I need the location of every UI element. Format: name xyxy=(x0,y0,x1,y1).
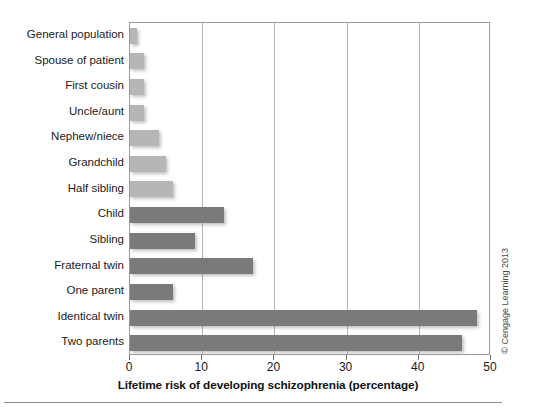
y-axis-label-child: Child xyxy=(0,201,124,227)
bar-row xyxy=(130,228,491,254)
x-tick-label-10: 10 xyxy=(181,360,221,374)
bar-row xyxy=(130,151,491,177)
y-axis-label-spouse-of-patient: Spouse of patient xyxy=(0,48,124,74)
bar-row xyxy=(130,23,491,49)
schizophrenia-risk-chart: General populationSpouse of patientFirst… xyxy=(0,0,536,414)
bar-fraternal-twin xyxy=(130,258,253,274)
copyright-credit: © Cengage Learning 2013 xyxy=(500,248,510,354)
bar-row xyxy=(130,49,491,75)
bar-row xyxy=(130,100,491,126)
y-axis-label-grandchild: Grandchild xyxy=(0,150,124,176)
y-axis-label-one-parent: One parent xyxy=(0,278,124,304)
plot-area xyxy=(129,22,490,355)
bar-general-population xyxy=(130,28,137,44)
bar-child xyxy=(130,207,224,223)
x-axis-title: Lifetime risk of developing schizophreni… xyxy=(0,378,536,392)
bar-nephew-niece xyxy=(130,130,159,146)
bar-row xyxy=(130,125,491,151)
bar-row xyxy=(130,177,491,203)
y-axis-label-first-cousin: First cousin xyxy=(0,73,124,99)
x-tick-label-50: 50 xyxy=(470,360,510,374)
x-tick-label-40: 40 xyxy=(398,360,438,374)
bar-row xyxy=(130,330,491,356)
bars-layer xyxy=(130,23,489,354)
bar-row xyxy=(130,279,491,305)
y-axis-label-fraternal-twin: Fraternal twin xyxy=(0,253,124,279)
x-tick-label-0: 0 xyxy=(109,360,149,374)
bar-row xyxy=(130,305,491,331)
bar-row xyxy=(130,74,491,100)
bar-half-sibling xyxy=(130,181,173,197)
y-axis-label-identical-twin: Identical twin xyxy=(0,304,124,330)
bar-two-parents xyxy=(130,335,462,351)
x-tick-label-30: 30 xyxy=(326,360,366,374)
bar-grandchild xyxy=(130,156,166,172)
y-axis-label-general-population: General population xyxy=(0,22,124,48)
bar-row xyxy=(130,202,491,228)
y-axis-label-uncle-aunt: Uncle/aunt xyxy=(0,99,124,125)
y-axis-labels: General populationSpouse of patientFirst… xyxy=(0,22,124,355)
bar-uncle-aunt xyxy=(130,105,144,121)
bottom-divider xyxy=(4,402,502,403)
bar-sibling xyxy=(130,233,195,249)
x-tick-label-20: 20 xyxy=(253,360,293,374)
y-axis-label-sibling: Sibling xyxy=(0,227,124,253)
bar-spouse-of-patient xyxy=(130,53,144,69)
bar-identical-twin xyxy=(130,310,477,326)
y-axis-label-two-parents: Two parents xyxy=(0,329,124,355)
bar-row xyxy=(130,254,491,280)
y-axis-label-nephew-niece: Nephew/niece xyxy=(0,124,124,150)
bar-first-cousin xyxy=(130,79,144,95)
bar-one-parent xyxy=(130,284,173,300)
y-axis-label-half-sibling: Half sibling xyxy=(0,176,124,202)
